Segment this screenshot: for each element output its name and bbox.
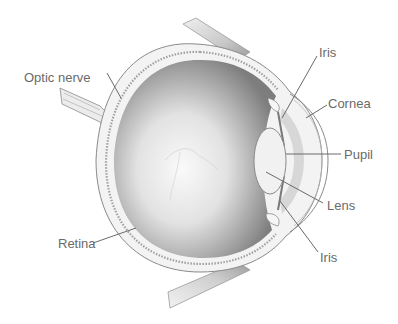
label-cornea: Cornea xyxy=(328,96,371,111)
label-lens: Lens xyxy=(327,198,356,213)
eye-diagram: Optic nerve Iris Cornea Pupil Lens Iris … xyxy=(0,0,398,324)
label-retina: Retina xyxy=(58,236,96,251)
label-pupil: Pupil xyxy=(344,147,373,162)
vitreous-body xyxy=(114,60,276,258)
label-iris-top: Iris xyxy=(319,45,337,60)
label-optic-nerve: Optic nerve xyxy=(24,70,90,85)
label-iris-bottom: Iris xyxy=(320,250,338,265)
lens-shape xyxy=(254,128,286,194)
